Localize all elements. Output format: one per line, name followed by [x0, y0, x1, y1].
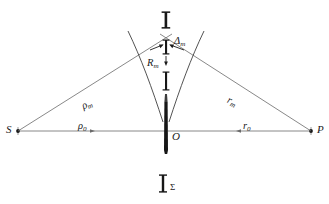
label-point-p: P [317, 124, 324, 135]
r-m-extent-bar [163, 72, 170, 91]
r-m-down-arrow [164, 56, 168, 66]
central-aperture-bar-throat [164, 94, 167, 102]
label-sigma: Σ [170, 183, 175, 192]
diagram-canvas [0, 0, 329, 204]
label-delta-m-sub: m [180, 40, 185, 48]
label-r-zero: r0 [243, 121, 251, 133]
label-capital-r-m: Rm [147, 58, 159, 70]
axis-left-measure-arrow [90, 129, 95, 133]
label-point-s: S [6, 124, 12, 135]
label-rho-zero-sub: 0 [83, 125, 87, 133]
delta-m-arrow-left [150, 45, 164, 50]
label-capital-r-m-sub: m [153, 62, 158, 70]
optics-figure: S O P ρ0 r0 ρm rm Rm Δm Σ [0, 0, 329, 204]
central-aperture-bar [164, 102, 168, 150]
label-rho-zero: ρ0 [78, 121, 87, 133]
axis-right-measure-arrow [236, 129, 241, 133]
label-delta-m: Δm [174, 36, 185, 48]
wavefront-curve-left [128, 31, 163, 122]
central-aperture-bar-lower-taper [164, 150, 168, 154]
label-point-o: O [172, 131, 180, 142]
top-i-marker [162, 11, 171, 28]
bottom-sigma-marker-bar [159, 174, 167, 192]
label-r-zero-sub: 0 [247, 125, 251, 133]
delta-m-gap-bar [163, 40, 170, 55]
ray-rho-m-line [18, 34, 172, 131]
